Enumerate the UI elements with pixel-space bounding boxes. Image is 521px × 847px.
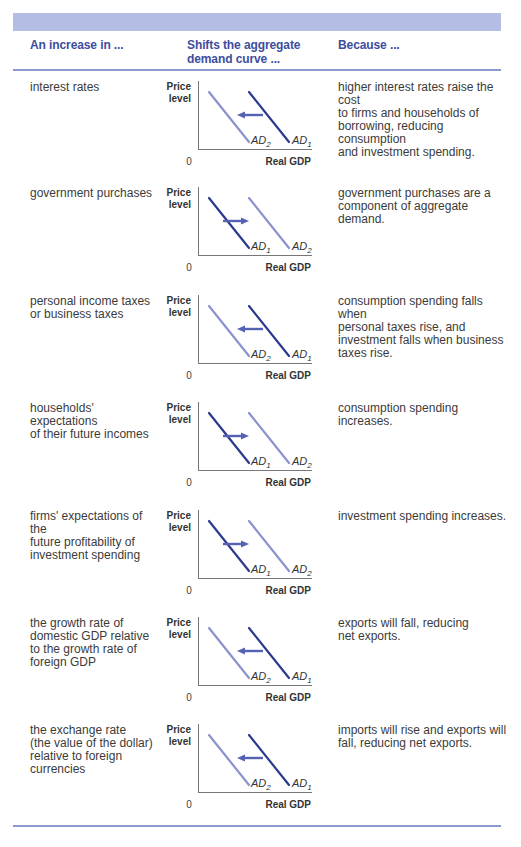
ad2-label: AD2	[250, 670, 271, 685]
y-axis-label: Price	[167, 187, 192, 198]
ad1-label: AD1	[291, 670, 312, 685]
origin-label: 0	[186, 585, 192, 596]
table-row: firms' expectations of thefuture profita…	[0, 510, 521, 617]
arrowhead-icon	[237, 326, 245, 333]
table-row: interest rateshigher interest rates rais…	[0, 81, 521, 188]
ad2-label: AD2	[291, 455, 312, 470]
x-axis-label: Real GDP	[265, 156, 311, 167]
reason-text: higher interest rates raise the cost	[338, 81, 508, 107]
reason-cell: imports will rise and exports willfall, …	[338, 724, 508, 750]
x-axis-label: Real GDP	[265, 262, 311, 273]
x-axis-label: Real GDP	[265, 370, 311, 381]
arrowhead-icon	[241, 433, 249, 440]
cause-cell: households' expectationsof their future …	[30, 402, 160, 441]
reason-text: net exports.	[338, 630, 508, 643]
reason-text: borrowing, reducing consumption	[338, 120, 508, 146]
header-rule	[13, 69, 501, 71]
origin-label: 0	[186, 477, 192, 488]
arrowhead-icon	[237, 648, 245, 655]
cause-text: of their future incomes	[30, 428, 160, 441]
reason-text: fall, reducing net exports.	[338, 737, 508, 750]
header-col-because: Because ...	[338, 38, 400, 52]
cause-cell: firms' expectations of thefuture profita…	[30, 510, 160, 562]
ad2-label: AD2	[250, 777, 271, 792]
reason-text: consumption spending falls when	[338, 295, 508, 321]
cause-cell: government purchases	[30, 187, 160, 200]
origin-label: 0	[186, 262, 192, 273]
cause-text: currencies	[30, 763, 160, 776]
ad-shift-chart: Pricelevel0Real GDPAD2AD1	[160, 718, 330, 818]
y-axis-label: level	[169, 307, 191, 318]
y-axis-label: Price	[167, 510, 192, 521]
table-row: households' expectationsof their future …	[0, 402, 521, 509]
cause-text: interest rates	[30, 81, 160, 94]
origin-label: 0	[186, 156, 192, 167]
x-axis-label: Real GDP	[265, 477, 311, 488]
header-col-shifts: Shifts the aggregate demand curve ...	[187, 38, 300, 66]
cause-cell: interest rates	[30, 81, 160, 94]
y-axis-label: level	[169, 736, 191, 747]
ad2-label: AD2	[291, 240, 312, 255]
y-axis-label: Price	[167, 724, 192, 735]
x-axis-label: Real GDP	[265, 585, 311, 596]
reason-text: investment spending increases.	[338, 510, 508, 523]
reason-cell: consumption spending increases.	[338, 402, 508, 428]
ad1-label: AD1	[250, 240, 271, 255]
reason-text: component of aggregate demand.	[338, 200, 508, 226]
ad2-label: AD2	[291, 563, 312, 578]
ad-shift-chart: Pricelevel0Real GDPAD2AD1	[160, 75, 330, 175]
ad-shift-chart: Pricelevel0Real GDPAD1AD2	[160, 396, 330, 496]
table-row: the exchange rate(the value of the dolla…	[0, 724, 521, 831]
reason-cell: government purchases are acomponent of a…	[338, 187, 508, 226]
ad1-label: AD1	[250, 563, 271, 578]
ad-shift-chart: Pricelevel0Real GDPAD2AD1	[160, 611, 330, 711]
reason-cell: consumption spending falls whenpersonal …	[338, 295, 508, 360]
cause-cell: the exchange rate(the value of the dolla…	[30, 724, 160, 776]
x-axis-label: Real GDP	[265, 692, 311, 703]
origin-label: 0	[186, 692, 192, 703]
y-axis-label: Price	[167, 402, 192, 413]
origin-label: 0	[186, 799, 192, 810]
ad-shift-chart: Pricelevel0Real GDPAD1AD2	[160, 181, 330, 281]
arrowhead-icon	[237, 755, 245, 762]
footer-rule	[13, 825, 501, 827]
table-row: the growth rate ofdomestic GDP relativet…	[0, 617, 521, 724]
y-axis-label: level	[169, 93, 191, 104]
y-axis-label: Price	[167, 81, 192, 92]
y-axis-label: level	[169, 414, 191, 425]
ad2-label: AD2	[250, 134, 271, 149]
reason-cell: investment spending increases.	[338, 510, 508, 523]
header-col-shifts-line1: Shifts the aggregate	[187, 38, 300, 52]
reason-text: taxes rise.	[338, 347, 508, 360]
cause-text: or business taxes	[30, 308, 160, 321]
y-axis-label: level	[169, 199, 191, 210]
reason-text: and investment spending.	[338, 146, 508, 159]
arrowhead-icon	[241, 218, 249, 225]
x-axis-label: Real GDP	[265, 799, 311, 810]
origin-label: 0	[186, 370, 192, 381]
cause-text: households' expectations	[30, 402, 160, 428]
reason-cell: higher interest rates raise the costto f…	[338, 81, 508, 159]
ad-shift-chart: Pricelevel0Real GDPAD2AD1	[160, 289, 330, 389]
ad-shift-chart: Pricelevel0Real GDPAD1AD2	[160, 504, 330, 604]
reason-text: consumption spending increases.	[338, 402, 508, 428]
header-band	[13, 13, 501, 31]
y-axis-label: level	[169, 522, 191, 533]
ad1-label: AD1	[291, 348, 312, 363]
header-col-increase: An increase in ...	[30, 38, 124, 52]
y-axis-label: Price	[167, 295, 192, 306]
cause-cell: the growth rate ofdomestic GDP relativet…	[30, 617, 160, 669]
cause-text: government purchases	[30, 187, 160, 200]
cause-text: foreign GDP	[30, 656, 160, 669]
arrowhead-icon	[237, 112, 245, 119]
reason-cell: exports will fall, reducingnet exports.	[338, 617, 508, 643]
ad1-label: AD1	[291, 134, 312, 149]
ad1-label: AD1	[291, 777, 312, 792]
y-axis-label: Price	[167, 617, 192, 628]
cause-text: investment spending	[30, 549, 160, 562]
header-col-shifts-line2: demand curve ...	[187, 52, 300, 66]
cause-text: firms' expectations of the	[30, 510, 160, 536]
cause-cell: personal income taxesor business taxes	[30, 295, 160, 321]
y-axis-label: level	[169, 629, 191, 640]
table-row: personal income taxesor business taxesco…	[0, 295, 521, 402]
